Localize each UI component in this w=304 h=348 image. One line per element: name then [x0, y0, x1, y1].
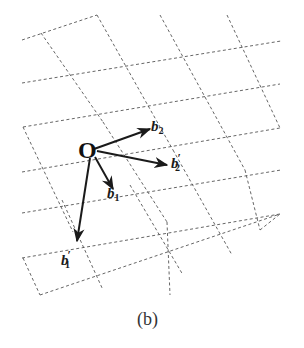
grid-line: [23, 127, 73, 232]
grid-line: [173, 150, 232, 255]
grid-line: [245, 170, 260, 230]
lattice-figure: O b2 b′2 b1 b′1 (b): [0, 0, 304, 348]
vector-b1-prime-arrow: [77, 158, 90, 241]
grid-line: [160, 15, 245, 170]
grid-line: [260, 214, 280, 230]
grid-line: [23, 258, 40, 295]
vector-b2-arrow: [94, 129, 150, 149]
grid-line: [22, 15, 97, 40]
grid-line: [227, 15, 280, 128]
lattice-grid: [0, 0, 304, 348]
label-b2: b2: [151, 119, 164, 136]
grid-line: [103, 122, 167, 222]
label-b1: b1: [107, 186, 120, 203]
origin-label: O: [78, 138, 97, 162]
grid-line: [62, 200, 103, 290]
grid-line: [41, 33, 103, 122]
grid-line: [40, 214, 280, 295]
figure-caption: (b): [137, 310, 158, 328]
label-b2-prime: b′2: [171, 156, 180, 173]
label-b1-prime: b′1: [61, 253, 70, 270]
grid-line: [130, 185, 183, 275]
